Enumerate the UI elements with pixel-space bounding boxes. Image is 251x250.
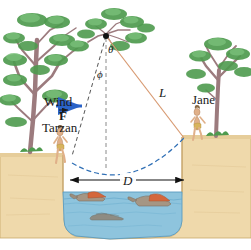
label-angle-theta: θ — [108, 44, 113, 55]
tree-left-foliage — [0, 13, 89, 127]
label-distance: D — [123, 174, 132, 187]
figure-canvas — [0, 0, 251, 250]
grass-tuft-left — [20, 147, 43, 152]
rope-line-tarzan — [72, 36, 106, 156]
label-wind: Wind — [44, 95, 72, 108]
label-jane: Jane — [192, 93, 215, 106]
tree-center-foliage — [77, 8, 155, 51]
label-angle-phi: ϕ — [97, 69, 103, 80]
tree-center-pivot — [77, 8, 155, 51]
label-tarzan: Tarzan — [42, 121, 77, 134]
label-rope-length: L — [159, 86, 166, 99]
pivot-point — [103, 33, 109, 39]
swing-trajectory-arc — [72, 138, 184, 175]
rope-line-L — [106, 36, 184, 138]
figure-jane — [191, 105, 205, 140]
physics-figure-tarzan-swing: Wind F Tarzan Jane L D θ ϕ — [0, 0, 251, 250]
